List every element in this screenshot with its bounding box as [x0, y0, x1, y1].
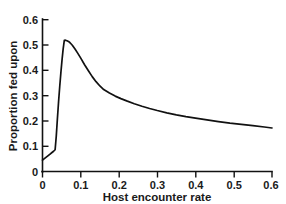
- y-axis-title: Proportion fed upon: [7, 41, 19, 152]
- x-tick-label: 0.1: [73, 179, 88, 191]
- y-tick-label: 0.5: [23, 39, 38, 51]
- x-tick-label: 0.2: [112, 179, 127, 191]
- x-axis-title: Host encounter rate: [103, 191, 212, 203]
- y-tick-label: 0.6: [23, 14, 38, 26]
- line-chart-plot: 0.6 0.5 0.4 0.3 0.2 0.1 0 0 0.1 0.2 0.3 …: [0, 0, 286, 204]
- y-tick-label: 0: [32, 166, 38, 178]
- y-tick-label: 0.1: [23, 140, 38, 152]
- y-tick-label: 0.4: [23, 64, 39, 76]
- x-tick-label: 0.4: [188, 179, 204, 191]
- chart-figure: 0.6 0.5 0.4 0.3 0.2 0.1 0 0 0.1 0.2 0.3 …: [0, 0, 286, 204]
- x-tick-label: 0.6: [263, 179, 278, 191]
- x-tick-label: 0.3: [150, 179, 165, 191]
- x-tick-label: 0: [39, 179, 45, 191]
- x-tick-label: 0.5: [227, 179, 242, 191]
- y-tick-label: 0.3: [23, 90, 38, 102]
- y-tick-label: 0.2: [23, 115, 38, 127]
